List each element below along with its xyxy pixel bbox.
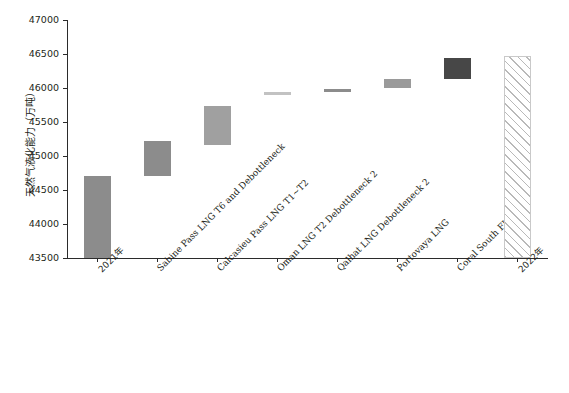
waterfall-chart: 天然气液化能力（万吨） 4350044000445004500045500460… <box>0 0 569 393</box>
bar-4 <box>324 89 351 92</box>
y-axis-tick-label: 45500 <box>13 116 59 127</box>
y-axis-tick <box>63 20 67 21</box>
y-axis-tick <box>63 224 67 225</box>
y-axis-tick <box>63 190 67 191</box>
y-axis-tick <box>63 122 67 123</box>
y-axis-tick <box>63 88 67 89</box>
bar-1 <box>144 141 171 176</box>
y-axis-tick <box>63 258 67 259</box>
bar-7 <box>504 56 531 258</box>
bar-5 <box>384 79 411 88</box>
plot-area <box>67 20 547 258</box>
bar-2 <box>204 106 231 145</box>
y-axis-tick-label: 46000 <box>13 82 59 93</box>
y-axis-tick-label: 44000 <box>13 218 59 229</box>
y-axis-tick-label: 45000 <box>13 150 59 161</box>
y-axis-tick-label: 46500 <box>13 48 59 59</box>
bar-0 <box>84 176 111 258</box>
y-axis-tick-label: 47000 <box>13 14 59 25</box>
y-axis-tick <box>63 156 67 157</box>
bar-3 <box>264 92 291 95</box>
y-axis-tick-label: 44500 <box>13 184 59 195</box>
y-axis-tick-label: 43500 <box>13 252 59 263</box>
y-axis-tick <box>63 54 67 55</box>
bar-6 <box>444 58 471 79</box>
